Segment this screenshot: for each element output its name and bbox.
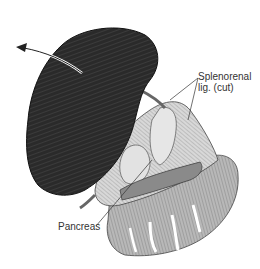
pancreas-label: Pancreas — [58, 221, 100, 232]
splenorenal-label-line2: lig. (cut) — [198, 82, 251, 93]
splenorenal-ligament-label: Splenorenal lig. (cut) — [198, 71, 251, 93]
anatomical-illustration: Splenorenal lig. (cut) Pancreas — [0, 0, 260, 269]
splenorenal-label-line1: Splenorenal — [198, 71, 251, 82]
illustration-drawing — [0, 0, 260, 269]
